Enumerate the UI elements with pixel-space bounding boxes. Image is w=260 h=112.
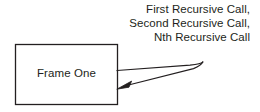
- recursion-diagram-canvas: Frame One First Recursive Call, Second R…: [0, 0, 260, 112]
- frame-one-box[interactable]: [16, 45, 118, 105]
- recursive-call-arrow[interactable]: [117, 62, 203, 89]
- arrowhead-icon: [117, 81, 132, 89]
- diagram-vector-layer: [0, 0, 260, 112]
